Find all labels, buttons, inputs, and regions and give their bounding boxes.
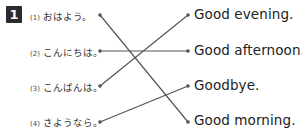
match-line-1-4 (100, 15, 188, 122)
match-line-4-3 (100, 86, 188, 122)
right-dot-2 (187, 50, 189, 52)
left-dot-2 (99, 50, 101, 52)
left-dot-1 (99, 14, 101, 16)
left-dot-4 (99, 121, 101, 123)
matching-lines (0, 0, 302, 129)
left-dot-3 (99, 85, 101, 87)
right-dot-1 (187, 14, 189, 16)
right-dot-4 (187, 121, 189, 123)
right-dot-3 (187, 85, 189, 87)
